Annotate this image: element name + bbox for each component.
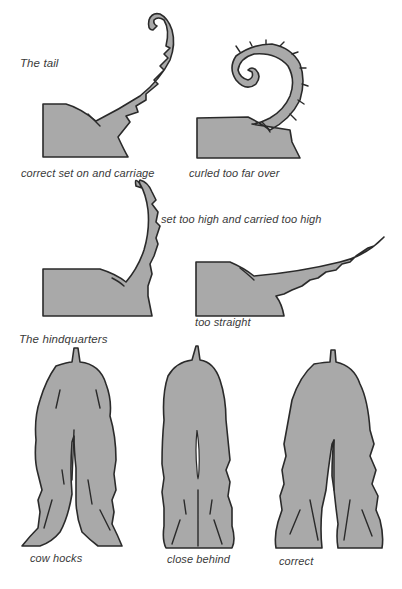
hind-close-behind-figure [162, 346, 234, 548]
tail-straight-figure [196, 237, 384, 316]
hind-cow-hocks-figure [22, 348, 122, 546]
hind-correct-figure [275, 350, 382, 548]
tail-high-figure [43, 180, 160, 316]
tail-correct-figure [43, 14, 174, 157]
tail-curled-figure [197, 40, 308, 158]
illustrations [0, 0, 402, 589]
